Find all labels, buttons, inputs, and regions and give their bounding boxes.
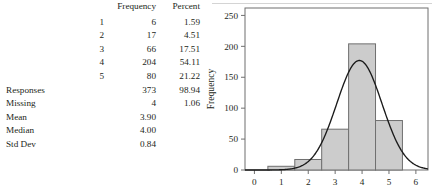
row-frequency: 80 (104, 70, 156, 84)
row-percent: 1.59 (156, 16, 200, 30)
table: Frequency Percent 161.592174.5136617.514… (0, 0, 200, 152)
row-frequency: 373 (104, 84, 156, 98)
table-header-row: Frequency Percent (0, 0, 200, 16)
x-axis-tick-label: 6 (414, 177, 419, 187)
x-axis-tick-label: 5 (387, 177, 392, 187)
y-axis-tick-label: 250 (224, 11, 238, 21)
row-percent: 17.51 (156, 43, 200, 57)
row-label: Median (0, 124, 78, 138)
table-row: 58021.22 (0, 70, 200, 84)
column-header-label (0, 0, 78, 16)
x-axis-tick-label: 0 (252, 177, 257, 187)
table-row: Missing41.06 (0, 97, 200, 111)
row-category (78, 84, 104, 98)
row-category: 3 (78, 43, 104, 57)
table-row: 420454.11 (0, 56, 200, 70)
row-percent: 1.06 (156, 97, 200, 111)
row-category (78, 124, 104, 138)
figure-container: Frequency Percent 161.592174.5136617.514… (0, 0, 435, 193)
table-row: Mean3.90 (0, 111, 200, 125)
row-label (0, 16, 78, 30)
row-percent (156, 124, 200, 138)
x-axis-tick-label: 3 (333, 177, 338, 187)
row-category (78, 97, 104, 111)
x-axis-tick-label: 1 (279, 177, 284, 187)
row-label (0, 43, 78, 57)
y-axis-tick-label: 0 (233, 165, 238, 175)
row-frequency: 3.90 (104, 111, 156, 125)
row-frequency: 4 (104, 97, 156, 111)
histogram-bar (349, 44, 376, 170)
row-frequency: 6 (104, 16, 156, 30)
y-axis-tick-label: 100 (224, 103, 238, 113)
y-axis-title: Frequency (205, 69, 216, 110)
row-category: 1 (78, 16, 104, 30)
histogram-chart: 0501001502002500123456Frequency (200, 0, 435, 193)
row-frequency: 4.00 (104, 124, 156, 138)
frequency-statistics-table: Frequency Percent 161.592174.5136617.514… (0, 0, 200, 193)
table-row: 161.59 (0, 16, 200, 30)
row-label (0, 29, 78, 43)
y-axis-tick-label: 50 (229, 134, 239, 144)
row-percent: 98.94 (156, 84, 200, 98)
row-category: 4 (78, 56, 104, 70)
y-axis-tick-label: 150 (224, 72, 238, 82)
row-label (0, 70, 78, 84)
column-header-frequency: Frequency (104, 0, 156, 16)
row-label: Missing (0, 97, 78, 111)
x-axis-tick-label: 4 (360, 177, 365, 187)
row-frequency: 66 (104, 43, 156, 57)
table-header: Frequency Percent (0, 0, 200, 16)
row-percent: 54.11 (156, 56, 200, 70)
row-percent (156, 138, 200, 152)
row-frequency: 204 (104, 56, 156, 70)
column-header-percent: Percent (156, 0, 200, 16)
row-label: Std Dev (0, 138, 78, 152)
row-category: 5 (78, 70, 104, 84)
table-row: Median4.00 (0, 124, 200, 138)
chart-render-group: 0501001502002500123456Frequency (205, 8, 428, 187)
row-label (0, 56, 78, 70)
row-category (78, 111, 104, 125)
table-row: 2174.51 (0, 29, 200, 43)
histogram-svg: 0501001502002500123456Frequency (200, 0, 435, 193)
row-percent (156, 111, 200, 125)
table-row: Responses37398.94 (0, 84, 200, 98)
row-category (78, 138, 104, 152)
y-axis-tick-label: 200 (224, 42, 238, 52)
row-category: 2 (78, 29, 104, 43)
table-row: 36617.51 (0, 43, 200, 57)
row-label: Responses (0, 84, 78, 98)
table-category-body: 161.592174.5136617.51420454.1158021.22 (0, 16, 200, 84)
row-frequency: 0.84 (104, 138, 156, 152)
table-summary-body: Responses37398.94Missing41.06Mean3.90Med… (0, 84, 200, 152)
row-frequency: 17 (104, 29, 156, 43)
row-percent: 21.22 (156, 70, 200, 84)
column-header-category (78, 0, 104, 16)
row-label: Mean (0, 111, 78, 125)
x-axis-tick-label: 2 (306, 177, 311, 187)
table-row: Std Dev0.84 (0, 138, 200, 152)
row-percent: 4.51 (156, 29, 200, 43)
